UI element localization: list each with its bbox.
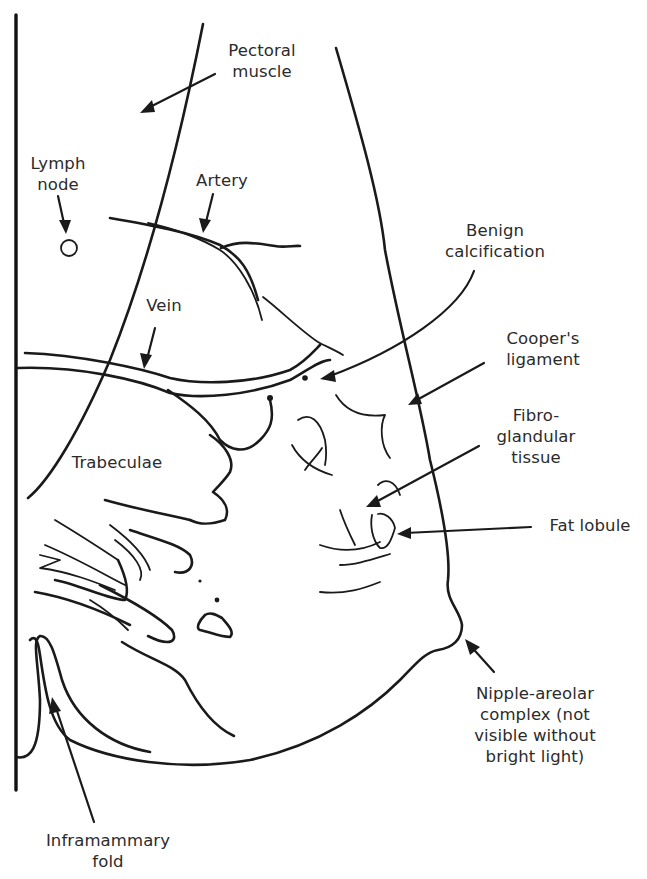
coopers-arrow <box>415 363 484 401</box>
label-nipple-areolar-complex: Nipple-areolar complex (not visible with… <box>460 683 610 767</box>
artery-branch <box>221 243 300 248</box>
fat-lobule-arrowhead <box>397 527 411 539</box>
vein-branch-down <box>168 390 272 449</box>
fibroglandular-curl <box>378 481 400 495</box>
label-trabeculae: Trabeculae <box>62 452 172 473</box>
vein-vessel-upper <box>25 345 320 382</box>
micro-calcification-1 <box>198 579 201 582</box>
glandular-contour-1 <box>190 435 231 524</box>
inframammary-arrowhead <box>49 697 61 714</box>
irregular-density <box>198 614 232 637</box>
inframammary-fold-contour <box>16 636 150 758</box>
central-lobule-6 <box>340 554 390 565</box>
fat-lobule-shape <box>371 514 395 549</box>
label-pectoral-muscle: Pectoral muscle <box>222 40 302 82</box>
lymph-node-arrowhead <box>59 220 71 234</box>
label-artery: Artery <box>190 170 254 191</box>
vein-end-dot <box>267 395 273 401</box>
trabeculae-strand-4 <box>110 525 150 570</box>
trabeculae-lobe-3 <box>100 585 174 642</box>
coopers-ligament-curve <box>336 395 390 458</box>
lower-glandular-curve <box>122 642 234 736</box>
label-fat-lobule: Fat lobule <box>540 515 640 536</box>
label-lymph-node: Lymph node <box>22 153 94 195</box>
artery-lower-branch <box>263 297 343 355</box>
central-lobule-7 <box>320 582 380 593</box>
fat-lobule-arrow <box>405 527 531 533</box>
coopers-arrowhead <box>408 393 422 405</box>
label-fibroglandular-tissue: Fibro- glandular tissue <box>488 405 584 468</box>
central-lobule-5 <box>320 542 380 550</box>
calcification-dot <box>302 375 308 381</box>
vein-arrowhead <box>140 353 152 369</box>
micro-calcification-2 <box>215 598 220 603</box>
artery-arrowhead <box>199 218 211 233</box>
label-vein: Vein <box>140 295 188 316</box>
fibroglandular-arrow <box>374 446 479 503</box>
pectoral-muscle-line <box>28 24 203 498</box>
breast-outer-contour <box>30 48 462 765</box>
calcification-arrowhead <box>320 370 336 382</box>
fibroglandular-arrowhead <box>366 495 381 507</box>
label-benign-calcification: Benign calcification <box>433 220 557 262</box>
label-coopers-ligament: Cooper's ligament <box>497 328 589 370</box>
pectoral-arrow <box>148 74 215 108</box>
label-inframammary-fold: Inframammary fold <box>38 830 178 872</box>
anatomy-diagram: Pectoral muscle Lymph node Artery Benign… <box>0 0 647 879</box>
pectoral-arrowhead <box>140 100 155 113</box>
calcification-arrow <box>330 271 474 376</box>
artery-vessel <box>110 218 258 300</box>
trabeculae-lobe-2 <box>35 592 130 625</box>
glandular-contour-2 <box>105 500 190 520</box>
lymph-node-circle <box>61 240 77 256</box>
central-lobule-4 <box>340 510 355 545</box>
